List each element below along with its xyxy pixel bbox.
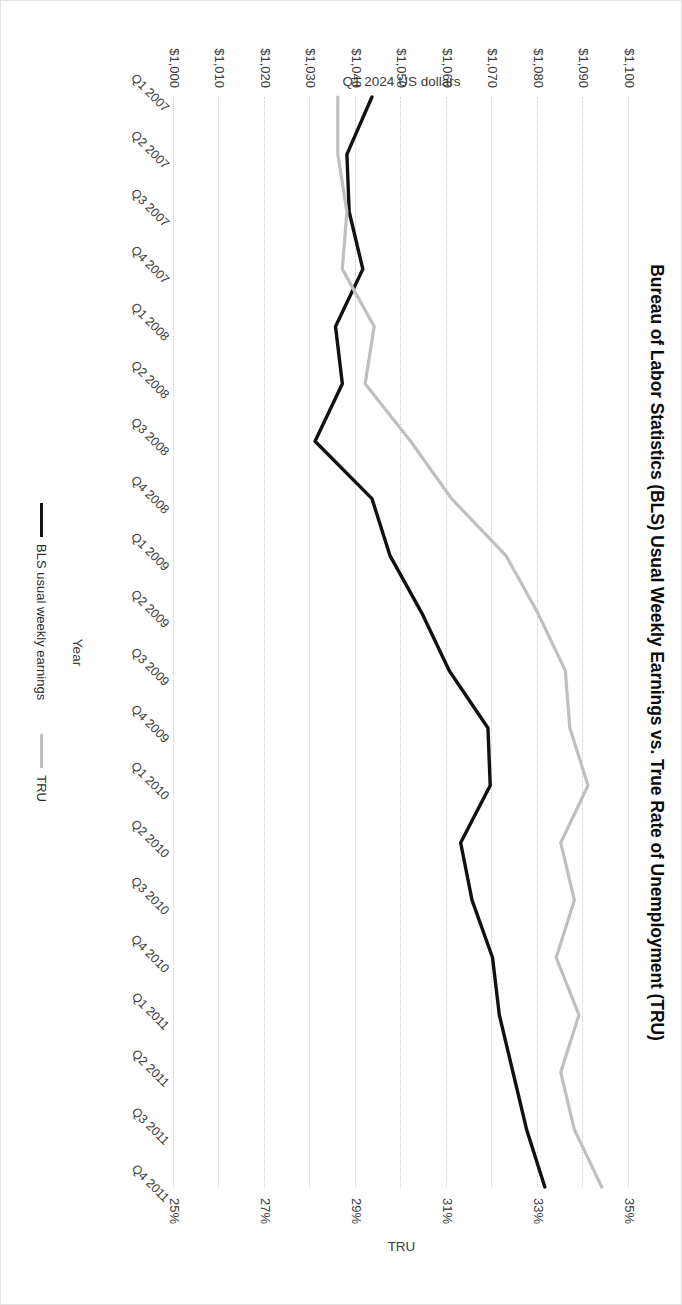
plot-area: $1,000$1,010$1,020$1,030$1,040$1,050$1,0… bbox=[174, 97, 629, 1187]
y-axis-tick-label: $1,080 bbox=[531, 48, 546, 88]
y-axis-tick-label: $1,010 bbox=[212, 48, 227, 88]
legend-item[interactable]: BLS usual weekly earnings bbox=[34, 503, 49, 700]
legend-label: TRU bbox=[34, 775, 49, 802]
chart-figure: Bureau of Labor Statistics (BLS) Usual W… bbox=[0, 0, 682, 1305]
y-axis-tick-label: $1,050 bbox=[394, 48, 409, 88]
y-axis-tick-label: $1,000 bbox=[167, 48, 182, 88]
x-axis-title: Year bbox=[70, 1, 85, 1304]
x-axis-tick-label: Q2 2010 bbox=[128, 817, 172, 861]
y-axis-tick-label: $1,070 bbox=[485, 48, 500, 88]
x-axis-tick-label: Q1 2011 bbox=[129, 990, 172, 1033]
x-axis-tick-label: Q3 2008 bbox=[128, 415, 172, 459]
rotated-chart-container: Bureau of Labor Statistics (BLS) Usual W… bbox=[0, 0, 682, 1305]
y-axis-tick-label: $1,030 bbox=[303, 48, 318, 88]
x-axis-tick-label: Q2 2007 bbox=[128, 128, 172, 172]
y-axis-tick-label: $1,100 bbox=[622, 48, 637, 88]
x-axis-tick-label: Q2 2009 bbox=[128, 587, 172, 631]
secondary-y-axis-title: TRU bbox=[174, 1233, 629, 1261]
x-axis-tick-label: Q4 2011 bbox=[129, 1162, 172, 1205]
x-axis-tick-label: Q3 2007 bbox=[128, 186, 172, 230]
legend-label: BLS usual weekly earnings bbox=[34, 544, 49, 700]
series-line bbox=[315, 97, 545, 1187]
y-axis-tick-label: $1,060 bbox=[440, 48, 455, 88]
y-axis-tick-label: $1,090 bbox=[576, 48, 591, 88]
x-axis-tick-label: Q1 2010 bbox=[128, 759, 172, 803]
y-axis-tick-label: $1,040 bbox=[349, 48, 364, 88]
secondary-y-axis-tick-label: 31% bbox=[440, 1198, 455, 1224]
series-line bbox=[338, 97, 602, 1187]
chart-legend: BLS usual weekly earningsTRU bbox=[34, 1, 49, 1304]
x-axis-tick-label: Q1 2008 bbox=[128, 301, 172, 345]
chart-title: Bureau of Labor Statistics (BLS) Usual W… bbox=[646, 1, 667, 1304]
secondary-y-axis-title-text: TRU bbox=[388, 1239, 416, 1254]
secondary-y-axis-tick-label: 35% bbox=[622, 1198, 637, 1224]
x-axis-tick-label: Q3 2011 bbox=[129, 1104, 172, 1147]
x-axis-tick-label: Q3 2010 bbox=[128, 874, 172, 918]
legend-line-swatch bbox=[40, 503, 43, 537]
x-axis-tick-label: Q1 2007 bbox=[128, 71, 172, 115]
secondary-y-axis-tick-label: 29% bbox=[349, 1198, 364, 1224]
secondary-y-axis-tick-label: 27% bbox=[258, 1198, 273, 1224]
legend-item[interactable]: TRU bbox=[34, 734, 49, 802]
secondary-y-axis-tick-label: 25% bbox=[167, 1198, 182, 1224]
x-axis-tick-label: Q4 2009 bbox=[128, 702, 172, 746]
x-axis-tick-label: Q2 2011 bbox=[129, 1047, 172, 1090]
x-axis-tick-label: Q4 2007 bbox=[128, 243, 172, 287]
series-lines bbox=[174, 97, 629, 1187]
chart-page: Bureau of Labor Statistics (BLS) Usual W… bbox=[0, 0, 682, 1305]
secondary-y-axis-tick-label: 33% bbox=[531, 1198, 546, 1224]
x-axis-tick-label: Q4 2008 bbox=[128, 473, 172, 517]
x-axis-tick-label: Q3 2009 bbox=[128, 645, 172, 689]
x-axis-tick-label: Q4 2010 bbox=[128, 932, 172, 976]
y-axis-tick-label: $1,020 bbox=[258, 48, 273, 88]
x-axis-tick-label: Q1 2009 bbox=[128, 530, 172, 574]
x-axis-tick-label: Q2 2008 bbox=[128, 358, 172, 402]
legend-line-swatch bbox=[40, 734, 43, 768]
